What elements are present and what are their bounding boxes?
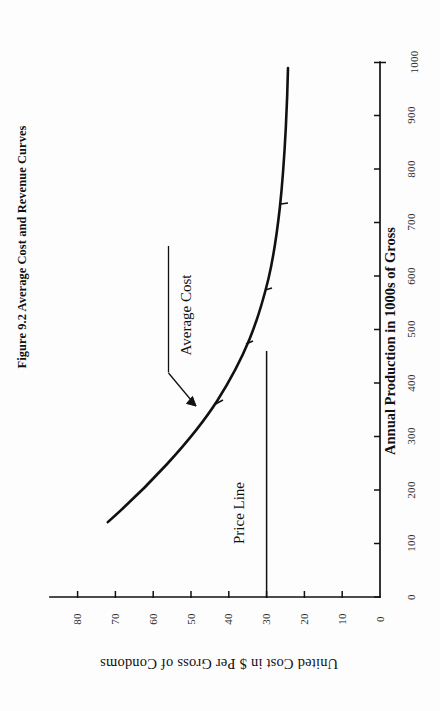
x-axis-title: Annual Production in 1000s of Gross <box>382 216 404 466</box>
x-tick-label-900: 900 <box>404 98 418 132</box>
figure-page: Figure 9.2 Average Cost and Revenue Curv… <box>0 0 440 711</box>
x-tick-label-600: 600 <box>404 259 418 293</box>
curve-marker-700 <box>281 203 288 204</box>
x-tick-label-0: 0 <box>404 580 418 614</box>
x-tick-label-400: 400 <box>404 366 418 400</box>
y-axis-group <box>50 591 380 598</box>
x-tick-label-700: 700 <box>404 205 418 239</box>
average-cost-arrow-head <box>187 397 197 407</box>
y-tick-label-0: 0 <box>373 602 387 636</box>
y-axis-title: United Cost in $ Per Gross of Condoms <box>54 648 384 672</box>
y-tick-label-80: 80 <box>70 602 84 636</box>
x-tick-label-200: 200 <box>404 473 418 507</box>
y-tick-label-30: 30 <box>259 602 273 636</box>
y-tick-label-50: 50 <box>184 602 198 636</box>
y-tick-label-70: 70 <box>108 602 122 636</box>
y-tick-label-20: 20 <box>297 602 311 636</box>
annotation-price-line: Price Line <box>231 463 251 563</box>
x-tick-label-500: 500 <box>404 312 418 346</box>
y-tick-label-60: 60 <box>146 602 160 636</box>
x-tick-label-100: 100 <box>404 526 418 560</box>
y-tick-label-10: 10 <box>335 602 349 636</box>
annotation-average-cost: Average Cost <box>178 255 198 375</box>
x-tick-label-300: 300 <box>404 419 418 453</box>
x-tick-label-800: 800 <box>404 152 418 186</box>
y-tick-label-40: 40 <box>221 602 235 636</box>
x-tick-label-1000: 1000 <box>407 42 421 82</box>
